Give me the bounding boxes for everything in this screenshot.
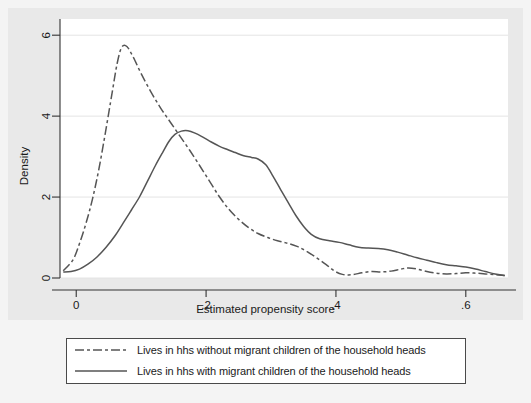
graph-region: 0246 0.2.4.6 Density xyxy=(8,8,523,320)
density-plot-svg: 0246 0.2.4.6 xyxy=(8,8,523,320)
y-tick-label: 2 xyxy=(40,194,52,200)
y-axis-title: Density xyxy=(18,136,30,196)
legend-label-with-migrant-children: Lives in hhs with migrant children of th… xyxy=(137,365,411,377)
x-axis-title: Estimated propensity score xyxy=(0,303,531,315)
dash-dot-line-key xyxy=(74,344,128,356)
legend-label-without-migrant-children: Lives in hhs without migrant children of… xyxy=(137,344,426,356)
y-axis-ticks: 0246 xyxy=(40,32,60,281)
y-tick-label: 4 xyxy=(40,112,52,119)
legend-entry-with-migrant-children: Lives in hhs with migrant children of th… xyxy=(67,360,465,381)
chart-page: 0246 0.2.4.6 Density Estimated propensit… xyxy=(0,0,531,403)
plot-background xyxy=(60,19,508,278)
y-tick-label: 0 xyxy=(40,275,52,281)
y-tick-label: 6 xyxy=(40,32,52,38)
legend: Lives in hhs without migrant children of… xyxy=(66,338,466,384)
solid-line-key xyxy=(74,365,128,377)
legend-entry-without-migrant-children: Lives in hhs without migrant children of… xyxy=(67,339,465,360)
